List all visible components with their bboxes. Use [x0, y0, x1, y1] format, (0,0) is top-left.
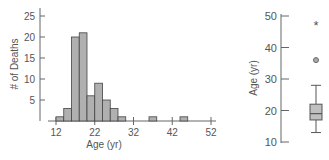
box-y-label: Age (yr)	[248, 60, 259, 96]
hist-y-tick-label: 10	[24, 74, 36, 85]
hist-bar	[110, 108, 118, 121]
hist-y-tick-label: 5	[29, 95, 35, 106]
hist-x-tick-label: 12	[50, 127, 62, 138]
chart-canvas: 510152025 1222324252 # of Deaths Age (yr…	[0, 0, 329, 160]
boxplot: 1020304050 Age (yr) *	[248, 10, 322, 148]
hist-bar	[149, 117, 157, 121]
hist-bar	[95, 83, 103, 121]
box-y-tick-label: 20	[265, 105, 277, 117]
hist-y-tick-label: 25	[24, 11, 36, 22]
hist-bar	[118, 117, 126, 121]
histogram: 510152025 1222324252 # of Deaths Age (yr…	[9, 8, 217, 150]
hist-y-tick-label: 15	[24, 53, 36, 64]
box-y-ticks: 1020304050	[265, 10, 289, 148]
box-y-tick-label: 50	[265, 10, 277, 22]
box-y-tick-label: 10	[265, 136, 277, 148]
outlier-point	[314, 58, 319, 63]
hist-bar	[56, 117, 64, 121]
hist-bar	[64, 108, 72, 121]
hist-y-label: # of Deaths	[9, 38, 20, 89]
hist-x-tick-label: 42	[167, 127, 179, 138]
hist-x-tick-label: 22	[89, 127, 101, 138]
hist-bar	[79, 33, 87, 121]
hist-bar	[87, 96, 95, 121]
hist-x-tick-label: 52	[205, 127, 217, 138]
hist-bar	[72, 37, 80, 121]
hist-bar	[103, 100, 111, 121]
box-body: *	[310, 18, 322, 132]
hist-x-tick-label: 32	[128, 127, 140, 138]
hist-y-tick-label: 20	[24, 32, 36, 43]
hist-y-ticks: 510152025	[24, 11, 45, 106]
extreme-outlier-point: *	[313, 18, 318, 33]
box-y-tick-label: 30	[265, 73, 277, 85]
iqr-box	[310, 104, 322, 120]
hist-bar	[180, 117, 188, 121]
hist-bars	[56, 33, 188, 121]
hist-x-label: Age (yr)	[86, 139, 122, 150]
box-y-tick-label: 40	[265, 42, 277, 54]
